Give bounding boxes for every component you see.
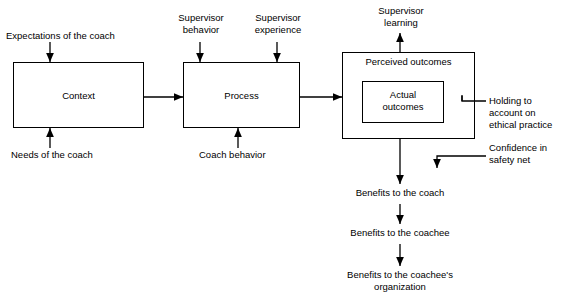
- box-actual-outcomes-label: Actual outcomes: [362, 89, 444, 113]
- label-supervisor-learning: Supervisor learning: [365, 5, 437, 29]
- box-perceived-outcomes-label: Perceived outcomes: [342, 56, 475, 68]
- box-context-label: Context: [13, 90, 144, 102]
- label-supervisor-experience: Supervisor experience: [241, 12, 315, 36]
- label-benefits-to-the-coachees-organization: Benefits to the coachee's organization: [322, 269, 478, 293]
- label-benefits-to-the-coach: Benefits to the coach: [336, 187, 464, 199]
- box-process-label: Process: [183, 90, 300, 102]
- label-needs-of-the-coach: Needs of the coach: [11, 149, 131, 161]
- diagram-canvas: Context Process Perceived outcomes Actua…: [0, 0, 569, 301]
- label-coach-behavior: Coach behavior: [199, 149, 289, 161]
- label-holding-to-account-on-ethical-practice: Holding to account on ethical practice: [489, 95, 567, 131]
- label-confidence-in-safety-net: Confidence in safety net: [489, 142, 567, 166]
- label-supervisor-behavior: Supervisor behavior: [166, 12, 236, 36]
- label-benefits-to-the-coachee: Benefits to the coachee: [332, 227, 468, 239]
- label-expectations-of-the-coach: Expectations of the coach: [6, 30, 136, 42]
